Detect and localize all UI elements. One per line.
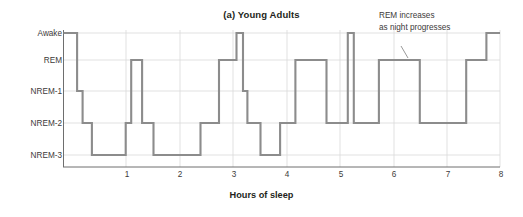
hypnogram-trace-line: [64, 33, 501, 155]
axes: [63, 30, 500, 167]
gridlines: [63, 30, 500, 167]
hypnogram-plot: [0, 0, 523, 217]
annotation-leader-line: [401, 46, 408, 58]
sleep-hypnogram-figure: (a) Young Adults Awake REM NREM-1 NREM-2…: [0, 0, 523, 217]
